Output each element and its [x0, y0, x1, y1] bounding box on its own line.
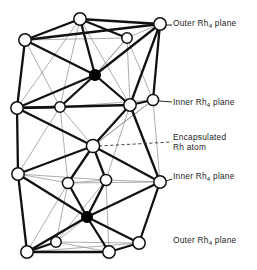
atom-vertex-D1 [86, 139, 99, 152]
atom-vertex-E3 [100, 174, 111, 185]
atom-vertex-A1 [19, 34, 31, 46]
bond-D1-E1 [18, 146, 93, 174]
label-inner-top-sub: 4 [207, 101, 211, 108]
label-inner-bottom-sub: 4 [207, 175, 211, 182]
label-encapsulated-line2: Rh atom [173, 143, 226, 153]
atom-vertex-C2 [55, 102, 65, 112]
label-outer-top-tail: plane [212, 18, 236, 28]
atom-vertex-A2 [74, 13, 86, 25]
atom-vertex-G2 [51, 237, 61, 247]
label-inner-bottom-text: Inner Rh [173, 171, 207, 181]
bond-E1-G1 [18, 174, 27, 252]
atom-interstitial-B1 [90, 70, 101, 81]
atom-vertex-E4 [154, 176, 166, 188]
bond-G2-G4 [56, 242, 139, 243]
label-outer-top-text: Outer Rh [173, 18, 209, 28]
atom-interstitial-F1 [82, 212, 93, 223]
bond-A2-B1 [80, 19, 95, 75]
bond-C3-E3 [106, 105, 130, 180]
bond-C2-E2 [60, 107, 68, 183]
leader-line-inner-bottom [166, 179, 172, 181]
leader-line-inner-top [159, 101, 172, 102]
label-inner-bottom-tail: plane [210, 171, 234, 181]
label-inner-top-tail: plane [210, 97, 234, 107]
bond-B1-A3 [95, 38, 127, 75]
label-encapsulated: Encapsulated Rh atom [173, 133, 226, 152]
label-outer-bottom: Outer Rh4 plane [173, 236, 236, 246]
bond-C3-D1 [93, 105, 130, 146]
atom-vertex-G3 [103, 246, 115, 258]
bond-E3-G3 [106, 180, 109, 252]
label-inner-top-text: Inner Rh [173, 97, 207, 107]
bond-E1-E3 [18, 174, 106, 180]
label-outer-top-sub: 4 [209, 22, 213, 29]
bond-C1-D1 [17, 108, 93, 146]
label-outer-bottom-tail: plane [212, 235, 236, 245]
figure-root: Outer Rh4 plane Inner Rh4 plane Encapsul… [0, 0, 257, 270]
label-outer-top: Outer Rh4 plane [173, 19, 236, 29]
atom-vertex-C3 [124, 99, 136, 111]
label-outer-bottom-text: Outer Rh [173, 235, 209, 245]
leader-line-encapsulated [99, 142, 172, 146]
atom-vertex-A3 [122, 33, 132, 43]
bond-E3-E4 [106, 180, 160, 182]
bond-C2-D1 [60, 107, 93, 146]
atom-vertex-G4 [133, 237, 145, 249]
atom-vertex-C4 [147, 94, 158, 105]
atom-vertex-A4 [154, 18, 166, 30]
atom-vertex-E1 [12, 168, 24, 180]
bond-A1-B1 [25, 40, 95, 75]
atom-vertex-E2 [62, 177, 73, 188]
bond-C1-E1 [17, 108, 18, 174]
bond-C2-E1 [18, 107, 60, 174]
bond-G2-G3 [56, 242, 109, 252]
label-outer-bottom-sub: 4 [209, 239, 213, 246]
atom-vertex-C1 [11, 102, 23, 114]
atom-vertex-G1 [21, 246, 33, 258]
bond-B1-C2 [60, 75, 95, 107]
label-inner-bottom: Inner Rh4 plane [173, 172, 235, 182]
label-inner-top: Inner Rh4 plane [173, 98, 235, 108]
